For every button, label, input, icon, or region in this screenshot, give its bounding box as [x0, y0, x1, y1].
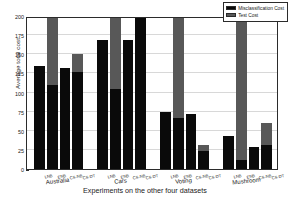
bar: [249, 147, 260, 169]
bar-segment-misclassification-cost: [186, 114, 197, 169]
legend: Misclassification Cost Test Cost: [223, 2, 288, 22]
bar-segment-misclassification-cost: [236, 160, 247, 169]
bar-segment-test-cost: [236, 17, 247, 160]
y-tick-mark: [26, 170, 29, 171]
legend-item-test-cost: Test Cost: [226, 12, 284, 19]
bar-segment-misclassification-cost: [173, 118, 184, 169]
bar: [110, 17, 121, 169]
bar-segment-misclassification-cost: [60, 68, 71, 169]
y-tick-label: 100: [2, 91, 24, 97]
bar: [173, 17, 184, 169]
bar-segment-misclassification-cost: [261, 145, 272, 169]
bar: [160, 112, 171, 169]
chart-figure: Average total cost 025507510012515017520…: [0, 0, 290, 201]
bar: [97, 40, 108, 169]
legend-swatch-test-cost: [226, 13, 236, 18]
bar-segment-misclassification-cost: [135, 17, 146, 169]
bar: [72, 54, 83, 170]
legend-label-misclassification-cost: Misclassification Cost: [238, 6, 284, 11]
bar: [135, 17, 146, 169]
y-tick-label: 200: [2, 14, 24, 20]
plot-area: [26, 17, 278, 170]
y-axis-title: Average total cost: [14, 9, 21, 119]
bar-segment-misclassification-cost: [34, 66, 45, 169]
y-tick-label: 150: [2, 52, 24, 58]
bar-segment-misclassification-cost: [198, 151, 209, 169]
bar-segment-misclassification-cost: [123, 40, 134, 169]
bar-segment-misclassification-cost: [97, 40, 108, 169]
y-tick-label: 0: [2, 167, 24, 173]
legend-item-misclassification-cost: Misclassification Cost: [226, 5, 284, 12]
bar: [47, 17, 58, 169]
bar: [236, 17, 247, 169]
bar-segment-misclassification-cost: [223, 136, 234, 169]
bar: [123, 40, 134, 169]
bar-segment-test-cost: [261, 123, 272, 145]
y-tick-label: 75: [2, 110, 24, 116]
bar: [198, 145, 209, 169]
bar-segment-test-cost: [110, 17, 121, 89]
bar-segment-test-cost: [72, 54, 83, 72]
bar: [186, 114, 197, 169]
bar-segment-test-cost: [47, 17, 58, 85]
bar-segment-test-cost: [173, 17, 184, 118]
bar: [223, 136, 234, 169]
bar-segment-misclassification-cost: [47, 85, 58, 169]
bar: [261, 123, 272, 169]
x-axis-title: Experiments on the other four datasets: [0, 186, 290, 195]
legend-swatch-misclassification-cost: [226, 6, 236, 11]
bar-segment-misclassification-cost: [160, 112, 171, 169]
y-tick-label: 175: [2, 33, 24, 39]
y-tick-label: 50: [2, 129, 24, 135]
bar: [60, 68, 71, 169]
y-tick-label: 125: [2, 71, 24, 77]
y-tick-label: 25: [2, 148, 24, 154]
bar: [34, 66, 45, 169]
legend-label-test-cost: Test Cost: [238, 13, 258, 18]
bar-segment-misclassification-cost: [249, 147, 260, 169]
bar-segment-misclassification-cost: [72, 72, 83, 169]
bar-segment-misclassification-cost: [110, 89, 121, 169]
